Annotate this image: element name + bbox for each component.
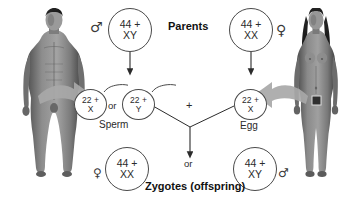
- female-body-figure: [288, 8, 343, 178]
- mother-sex-chromosomes: XX: [244, 30, 258, 41]
- female-symbol-zygote: ♀: [93, 166, 102, 180]
- sperm-x-tail: [104, 85, 128, 92]
- male-symbol-father: ♂: [90, 19, 103, 35]
- egg-sex-chromosome: X: [248, 105, 254, 114]
- sperm-label: Sperm: [99, 119, 128, 130]
- sperm-x-sex-chromosome: X: [88, 105, 94, 114]
- or-label-zygotes: or: [184, 158, 192, 169]
- parent-cell-mother: 44 + XX: [229, 8, 273, 52]
- gamete-cell-egg-x: 22 + X: [234, 89, 267, 120]
- zygote-female-sex-chromosomes: XX: [120, 169, 134, 180]
- father-sex-chromosomes: XY: [123, 30, 137, 41]
- offspring-title: Zygotes (offspring): [145, 180, 245, 192]
- gamete-cell-sperm-y: 22 + Y: [122, 89, 155, 120]
- line-egg-to-fusion: [190, 106, 234, 127]
- or-label-gametes: or: [108, 100, 116, 111]
- sex-determination-diagram: 44 + XY ♂ 44 + XX ♀ Parents 22 + X or 22…: [0, 0, 343, 199]
- zygote-cell-female: 44 + XX: [105, 147, 149, 191]
- egg-label: Egg: [240, 120, 258, 131]
- zygote-male-sex-chromosomes: XY: [248, 169, 262, 180]
- gamete-cell-sperm-x: 22 + X: [74, 89, 107, 120]
- sperm-y-sex-chromosome: Y: [136, 105, 142, 114]
- male-symbol-zygote: ♂: [278, 166, 289, 180]
- sperm-y-tail: [152, 85, 176, 92]
- line-sperm-to-fusion: [153, 106, 190, 127]
- parents-title: Parents: [168, 20, 208, 32]
- parent-cell-father: 44 + XY: [108, 8, 152, 52]
- fusion-plus-sign: +: [186, 99, 192, 111]
- female-symbol-mother: ♀: [276, 22, 286, 38]
